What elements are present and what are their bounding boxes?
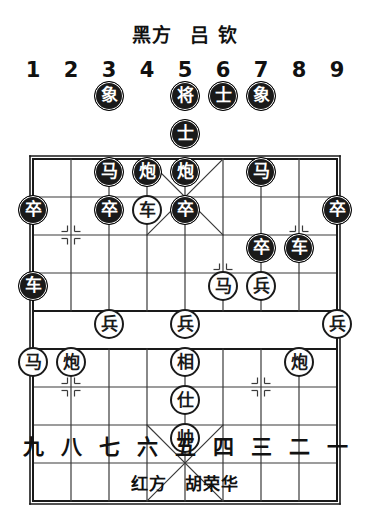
- red-elephant-file5[interactable]: 相: [170, 347, 200, 377]
- file-label-五: 五: [172, 434, 198, 460]
- file-label-九: 九: [20, 434, 46, 460]
- black-chariot-file8[interactable]: 车: [284, 233, 314, 263]
- file-label-八: 八: [58, 434, 84, 460]
- black-cannon-file4[interactable]: 炮: [132, 157, 162, 187]
- black-elephant-file3[interactable]: 象: [94, 81, 124, 111]
- red-player-name: 胡荣华: [185, 474, 239, 494]
- black-pawn-file7[interactable]: 卒: [246, 233, 276, 263]
- black-cannon-file5[interactable]: 炮: [170, 157, 200, 187]
- black-player-name: 吕 钦: [190, 24, 238, 46]
- red-horse-file6[interactable]: 马: [208, 271, 238, 301]
- xiangqi-diagram: 黑方吕 钦 123456789 象将士象士马炮炮马卒卒车卒卒卒车车马兵兵兵兵马炮…: [0, 0, 370, 507]
- file-label-一: 一: [324, 434, 350, 460]
- red-cannon-file8[interactable]: 炮: [284, 347, 314, 377]
- file-label-七: 七: [96, 434, 122, 460]
- red-pawn-file9[interactable]: 兵: [322, 309, 352, 339]
- red-side-caption: 红方胡荣华: [0, 470, 370, 495]
- black-advisor-file6[interactable]: 士: [208, 81, 238, 111]
- file-label-二: 二: [286, 434, 312, 460]
- red-pawn-file5[interactable]: 兵: [170, 309, 200, 339]
- black-advisor-file5[interactable]: 士: [170, 119, 200, 149]
- red-chariot-file4[interactable]: 车: [132, 195, 162, 225]
- file-label-六: 六: [134, 434, 160, 460]
- black-pawn-file5[interactable]: 卒: [170, 195, 200, 225]
- red-pawn-file7[interactable]: 兵: [246, 271, 276, 301]
- black-general-file5[interactable]: 将: [170, 81, 200, 111]
- file-label-三: 三: [248, 434, 274, 460]
- red-pawn-file3[interactable]: 兵: [94, 309, 124, 339]
- red-side-label: 红方: [131, 474, 167, 494]
- black-pawn-file3[interactable]: 卒: [94, 195, 124, 225]
- red-horse-file1[interactable]: 马: [18, 347, 48, 377]
- black-side-label: 黑方: [132, 24, 172, 46]
- black-side-caption: 黑方吕 钦: [0, 20, 370, 47]
- xiangqi-board[interactable]: 象将士象士马炮炮马卒卒车卒卒卒车车马兵兵兵兵马炮相炮仕帅: [33, 96, 337, 438]
- black-horse-file7[interactable]: 马: [246, 157, 276, 187]
- file-label-四: 四: [210, 434, 236, 460]
- black-horse-file3[interactable]: 马: [94, 157, 124, 187]
- black-pawn-file1[interactable]: 卒: [18, 195, 48, 225]
- file-labels-bottom: 九八七六五四三二一: [0, 434, 370, 460]
- black-elephant-file7[interactable]: 象: [246, 81, 276, 111]
- red-cannon-file2[interactable]: 炮: [56, 347, 86, 377]
- red-advisor-file5[interactable]: 仕: [170, 385, 200, 415]
- black-pawn-file9[interactable]: 卒: [322, 195, 352, 225]
- black-chariot-file1[interactable]: 车: [18, 271, 48, 301]
